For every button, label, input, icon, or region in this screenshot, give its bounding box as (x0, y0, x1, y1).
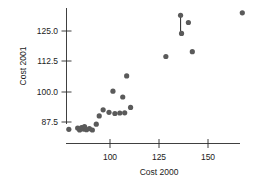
x-tick-label-2: 150 (201, 152, 215, 162)
data-point (178, 13, 183, 18)
data-point (124, 73, 129, 78)
y-tick-label-2: 112.5 (37, 56, 58, 66)
data-point (179, 31, 184, 36)
data-point (101, 107, 106, 112)
y-axis-title: Cost 2001 (18, 46, 28, 85)
data-point (106, 110, 111, 115)
y-tick-label-3: 125.0 (37, 26, 59, 36)
plot-canvas: 125.0 112.5 100.0 87.5 100 125 150 Cost … (0, 0, 254, 182)
data-point (190, 49, 195, 54)
x-tick-label-1: 125 (152, 152, 166, 162)
data-point (90, 127, 95, 132)
data-point (186, 20, 191, 25)
data-point (97, 113, 102, 118)
x-tick-label-0: 100 (103, 152, 117, 162)
data-point (163, 54, 168, 59)
x-axis-title: Cost 2000 (140, 167, 179, 177)
data-point (94, 122, 99, 127)
y-tick-label-0: 87.5 (41, 117, 58, 127)
data-point (122, 110, 127, 115)
data-points-layer (66, 10, 245, 132)
y-tick-label-1: 100.0 (37, 87, 59, 97)
data-point (112, 111, 117, 116)
data-point (240, 10, 245, 15)
data-point (128, 105, 133, 110)
scatter-chart: 125.0 112.5 100.0 87.5 100 125 150 Cost … (0, 0, 254, 182)
data-point (66, 127, 71, 132)
data-point (110, 89, 115, 94)
data-point (120, 94, 125, 99)
data-point (117, 110, 122, 115)
